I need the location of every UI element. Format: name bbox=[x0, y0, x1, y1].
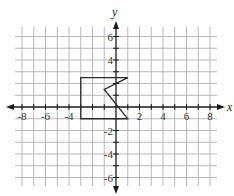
y-axis-arrow-up-icon bbox=[113, 21, 119, 29]
x-tick-label: -6 bbox=[41, 110, 51, 122]
y-tick-label: -4 bbox=[104, 148, 114, 160]
y-tick-label: 4 bbox=[108, 54, 114, 66]
coordinate-plane: -8-6-4246864-2-4-6 x y bbox=[0, 0, 234, 196]
x-axis-arrow-left-icon bbox=[6, 104, 14, 110]
x-tick-label: 6 bbox=[184, 110, 190, 122]
x-tick-label: -8 bbox=[17, 110, 27, 122]
x-axis-label: x bbox=[226, 100, 233, 114]
y-axis-label: y bbox=[111, 5, 118, 19]
x-tick-label: -4 bbox=[64, 110, 74, 122]
y-axis-arrow-down-icon bbox=[113, 186, 119, 194]
y-tick-label: -6 bbox=[104, 172, 114, 184]
x-tick-label: 4 bbox=[160, 110, 166, 122]
x-axis-arrow-right-icon bbox=[217, 104, 225, 110]
y-tick-label: -2 bbox=[104, 125, 113, 137]
x-tick-label: 8 bbox=[207, 110, 213, 122]
axes bbox=[6, 21, 225, 194]
y-tick-label: 6 bbox=[108, 31, 114, 43]
x-tick-label: 2 bbox=[137, 110, 143, 122]
